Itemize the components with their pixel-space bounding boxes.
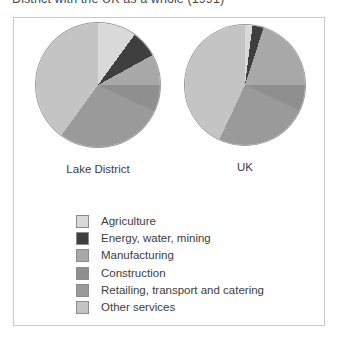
pie-chart-uk bbox=[185, 25, 305, 145]
legend: AgricultureEnergy, water, miningManufact… bbox=[76, 213, 316, 316]
figure-frame: Lake District UK AgricultureEnergy, wate… bbox=[13, 17, 325, 326]
legend-item-label: Other services bbox=[101, 301, 175, 314]
legend-item-label: Energy, water, mining bbox=[101, 232, 211, 245]
legend-swatch-icon bbox=[76, 232, 89, 245]
legend-item-label: Retailing, transport and catering bbox=[101, 284, 264, 297]
legend-swatch-icon bbox=[76, 249, 89, 262]
legend-item: Agriculture bbox=[76, 213, 316, 230]
pie-chart-lake-district bbox=[36, 23, 160, 147]
legend-item: Other services bbox=[76, 299, 316, 316]
legend-swatch-icon bbox=[76, 267, 89, 280]
pie-label-lake-district: Lake District bbox=[23, 162, 173, 176]
legend-item: Construction bbox=[76, 265, 316, 282]
pie-block-lake-district: Lake District bbox=[23, 23, 173, 176]
pie-block-uk: UK bbox=[170, 25, 320, 174]
legend-item-label: Agriculture bbox=[101, 215, 156, 228]
chart-title: District with the UK as a whole (1991) bbox=[12, 0, 332, 7]
legend-swatch-icon bbox=[76, 284, 89, 297]
legend-item: Retailing, transport and catering bbox=[76, 282, 316, 299]
pie-label-uk: UK bbox=[170, 160, 320, 174]
legend-item: Manufacturing bbox=[76, 247, 316, 264]
legend-item-label: Construction bbox=[101, 267, 166, 280]
legend-item: Energy, water, mining bbox=[76, 230, 316, 247]
legend-swatch-icon bbox=[76, 215, 89, 228]
legend-swatch-icon bbox=[76, 301, 89, 314]
legend-item-label: Manufacturing bbox=[101, 249, 174, 262]
